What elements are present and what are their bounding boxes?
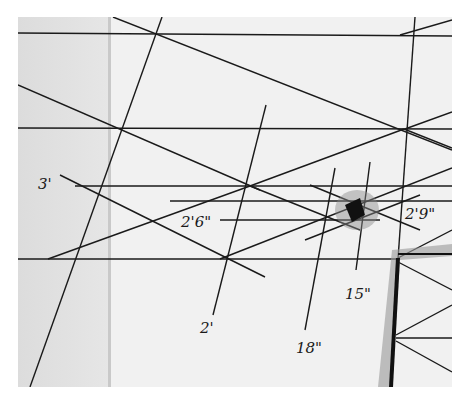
label-3ft: 3' [38,175,52,193]
perspective-drawing [18,17,452,387]
label-15in: 15" [345,285,371,303]
label-2ft6in: 2'6" [181,213,211,231]
label-2ft: 2' [200,319,214,337]
sketch-photo: 3' 2'6" 2'9" 2' 18" 15" [18,17,452,387]
label-18in: 18" [296,339,322,357]
label-2ft9in: 2'9" [405,205,435,223]
